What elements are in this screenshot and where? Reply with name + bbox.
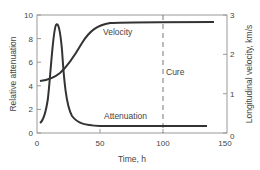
y-right-tick: 1 — [230, 90, 235, 99]
x-axis-label: Time, h — [118, 154, 146, 164]
chart: 0 2 4 6 8 10 0 1 2 3 0 50 100 150 Time, … — [0, 0, 260, 170]
x-tick: 0 — [35, 139, 40, 148]
left-tick-labels: 0 2 4 6 8 10 — [24, 11, 33, 138]
attenuation-label: Attenuation — [104, 111, 147, 121]
y-tick: 10 — [24, 11, 33, 20]
y-axis-right-label: Longitudinal velocity, km/s — [244, 25, 254, 124]
velocity-label: Velocity — [103, 27, 133, 37]
cure-label: Cure — [166, 67, 185, 77]
x-tick: 100 — [156, 139, 170, 148]
y-tick: 4 — [29, 82, 34, 91]
y-right-tick: 3 — [230, 11, 235, 20]
x-tick: 50 — [96, 139, 105, 148]
y-tick: 6 — [29, 58, 34, 67]
y-tick: 2 — [29, 105, 34, 114]
x-tick: 150 — [218, 139, 232, 148]
x-tick-labels: 0 50 100 150 — [35, 139, 232, 148]
y-axis-label: Relative attenuation — [8, 36, 18, 111]
right-tick-labels: 0 1 2 3 — [230, 11, 235, 141]
y-tick: 8 — [29, 35, 34, 44]
y-right-tick: 2 — [230, 50, 235, 59]
y-tick: 0 — [29, 129, 34, 138]
